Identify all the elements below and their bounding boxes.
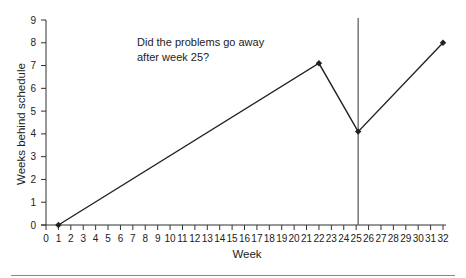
- x-tick-label: 2: [68, 233, 74, 244]
- x-tick-label: 5: [105, 233, 111, 244]
- x-tick-label: 8: [142, 233, 148, 244]
- x-tick-label: 31: [425, 233, 437, 244]
- x-tick-label: 21: [301, 233, 313, 244]
- x-tick-label: 12: [189, 233, 201, 244]
- x-tick-label: 15: [227, 233, 239, 244]
- x-tick-label: 30: [413, 233, 425, 244]
- x-axis: 0123456789101112131415161718192021222324…: [41, 225, 449, 244]
- x-tick-label: 25: [351, 233, 363, 244]
- annotation-text: Did the problems go away: [137, 36, 265, 48]
- x-tick-label: 20: [289, 233, 301, 244]
- x-axis-label: Week: [232, 248, 261, 260]
- x-tick-label: 4: [93, 233, 99, 244]
- x-tick-label: 7: [130, 233, 136, 244]
- series-line: [58, 43, 443, 225]
- x-tick-label: 0: [43, 233, 49, 244]
- x-tick-label: 6: [118, 233, 124, 244]
- x-tick-label: 32: [437, 233, 449, 244]
- y-tick-label: 1: [30, 197, 36, 208]
- x-tick-label: 28: [388, 233, 400, 244]
- x-tick-label: 9: [155, 233, 161, 244]
- x-tick-label: 11: [177, 233, 188, 244]
- y-tick-label: 2: [30, 174, 36, 185]
- y-tick-label: 0: [30, 220, 36, 231]
- x-tick-label: 19: [276, 233, 288, 244]
- line-chart: 0123456789 01234567891011121314151617181…: [0, 0, 466, 278]
- x-tick-label: 1: [56, 233, 62, 244]
- y-tick-label: 6: [30, 83, 36, 94]
- diamond-marker: [55, 222, 61, 228]
- x-tick-label: 18: [264, 233, 276, 244]
- x-tick-label: 14: [214, 233, 226, 244]
- x-tick-label: 16: [239, 233, 251, 244]
- x-tick-label: 17: [251, 233, 263, 244]
- y-tick-label: 3: [30, 151, 36, 162]
- y-axis: 0123456789: [30, 15, 46, 231]
- diamond-marker: [316, 60, 322, 66]
- x-tick-label: 10: [165, 233, 177, 244]
- y-tick-label: 9: [30, 15, 36, 26]
- annotations: Did the problems go awayafter week 25?: [137, 36, 265, 63]
- y-tick-label: 4: [30, 128, 36, 139]
- x-tick-label: 3: [80, 233, 86, 244]
- y-axis-label: Weeks behind schedule: [15, 63, 27, 185]
- x-tick-label: 24: [338, 233, 350, 244]
- x-tick-label: 26: [363, 233, 375, 244]
- x-tick-label: 13: [202, 233, 214, 244]
- y-tick-label: 8: [30, 37, 36, 48]
- x-tick-label: 22: [313, 233, 325, 244]
- x-tick-label: 27: [375, 233, 387, 244]
- x-tick-label: 23: [326, 233, 338, 244]
- x-tick-label: 29: [400, 233, 412, 244]
- y-tick-label: 5: [30, 106, 36, 117]
- annotation-text: after week 25?: [137, 51, 209, 63]
- data-series: [55, 40, 446, 229]
- y-tick-label: 7: [30, 60, 36, 71]
